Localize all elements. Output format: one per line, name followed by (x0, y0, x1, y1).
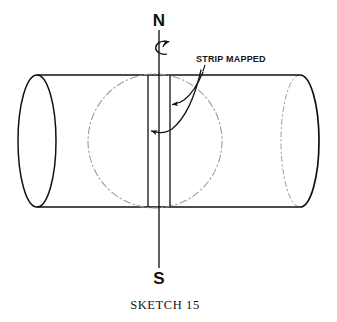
sketch-figure: N S STRIP MAPPED SKETCH 15 (0, 0, 337, 322)
north-pole-label: N (153, 11, 165, 30)
south-pole-label: S (153, 269, 164, 288)
figure-caption: SKETCH 15 (130, 298, 200, 312)
figure-background (0, 0, 337, 322)
strip-mapped-label: STRIP MAPPED (196, 54, 266, 64)
